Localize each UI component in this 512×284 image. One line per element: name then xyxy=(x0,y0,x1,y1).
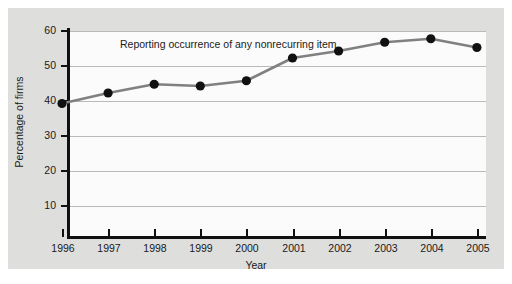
data-point-2003 xyxy=(380,38,389,47)
data-point-1997 xyxy=(104,88,113,97)
data-point-1996 xyxy=(57,99,66,108)
data-point-2002 xyxy=(334,46,343,55)
data-point-1998 xyxy=(150,80,159,89)
data-point-2000 xyxy=(242,76,251,85)
data-point-2005 xyxy=(472,43,481,52)
chart-panel: 60 50 40 30 20 10 1996 1997 1998 1999 20… xyxy=(8,8,504,269)
data-point-2004 xyxy=(426,34,435,43)
series-polyline xyxy=(62,39,477,104)
series-line-chart xyxy=(8,8,504,269)
data-point-1999 xyxy=(196,81,205,90)
figure-canvas: 60 50 40 30 20 10 1996 1997 1998 1999 20… xyxy=(0,0,512,284)
series-markers-group xyxy=(57,34,481,108)
data-point-2001 xyxy=(288,53,297,62)
